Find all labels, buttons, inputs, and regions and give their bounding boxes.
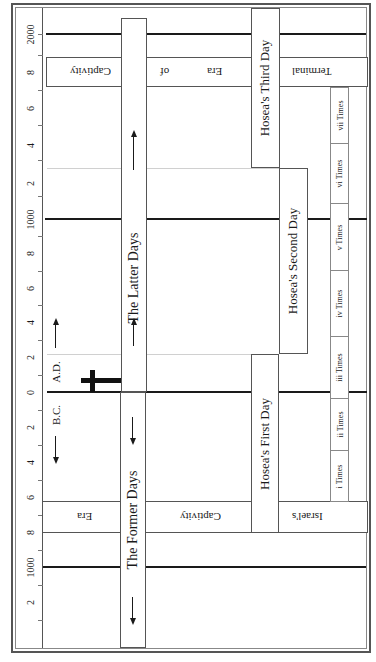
arrow-up-icon [53, 318, 59, 325]
arrow-shaft [132, 417, 133, 439]
tick-label: 4 [22, 447, 38, 477]
latter-days-column: The Latter Days [121, 164, 147, 392]
tick-label: 1000 [22, 552, 38, 582]
tick [38, 410, 43, 411]
arrow-down-icon [130, 618, 136, 625]
arrow-shaft [132, 597, 133, 619]
latter-days-column-upper [121, 18, 147, 164]
tick-label: 2 [22, 168, 38, 198]
times-cell-iv: iv Times [330, 270, 349, 337]
tick [38, 271, 43, 272]
former-days-column: The Former Days [120, 392, 146, 648]
arrow-down-icon [130, 438, 136, 445]
tick [38, 375, 43, 376]
band-word-israels: Israel's [282, 501, 332, 533]
times-cell-ii: ii Times [330, 398, 349, 451]
guide-line-200ad [47, 168, 305, 169]
tick-label: 8 [22, 57, 38, 87]
tick [38, 305, 43, 306]
tick [38, 550, 43, 551]
tick [38, 480, 43, 481]
tick-label: 0 [22, 377, 38, 407]
year-line-1000ad [45, 218, 367, 220]
band-word-captivity: Captivity [165, 501, 235, 533]
tick [38, 34, 43, 35]
tick [38, 445, 43, 446]
hosea-second-day: Hosea's Second Day [279, 168, 308, 354]
tick [38, 236, 43, 237]
arrow-shaft [133, 136, 134, 170]
tick-label: 6 [22, 93, 38, 123]
arrow-shaft [133, 324, 134, 346]
tick-label: 4 [22, 130, 38, 160]
tick-label: 2000 [22, 19, 38, 49]
tick-label: 2 [22, 412, 38, 442]
times-cell-vii: vii Times [330, 87, 349, 144]
year-line-0 [47, 391, 367, 393]
tick-label: 8 [22, 238, 38, 268]
arrow-shaft [55, 324, 56, 348]
guide-line-200ad-lower [47, 354, 252, 355]
band-word-terminal: Terminal [282, 57, 342, 87]
tick-label: 6 [22, 273, 38, 303]
band-word-era: Era [190, 57, 240, 87]
inner-frame [15, 7, 367, 649]
ad-label: A.D. [48, 355, 64, 389]
tick [38, 160, 43, 161]
tick [38, 55, 43, 56]
tick-label: 6 [22, 482, 38, 512]
tick [38, 340, 43, 341]
tick-label: 4 [22, 307, 38, 337]
tick [38, 620, 43, 621]
tick-label: 2 [22, 342, 38, 372]
bc-label: B.C. [48, 398, 64, 432]
year-line-1000bc [43, 566, 366, 568]
arrow-up-icon [131, 318, 137, 325]
year-line-2000 [46, 33, 366, 35]
tick-label: 1000 [22, 204, 38, 234]
times-cell-v: v Times [330, 203, 349, 271]
tick [38, 125, 43, 126]
hosea-first-day: Hosea's First Day [251, 354, 279, 533]
times-cell-vi: vi Times [330, 143, 349, 204]
band-word-era: Era [60, 501, 110, 533]
tick-label: 2 [22, 587, 38, 617]
timeline-axis [42, 8, 43, 648]
tick [38, 196, 43, 197]
tick [38, 90, 43, 91]
tick [38, 585, 43, 586]
band-word-of: of [145, 57, 185, 87]
arrow-down-icon [53, 457, 59, 464]
tick-label: 8 [22, 517, 38, 547]
arrow-shaft [55, 436, 56, 458]
times-cell-iii: iii Times [330, 336, 349, 399]
times-cell-i: i Times [330, 450, 349, 502]
cross-icon-bar [81, 378, 121, 383]
band-word-captivity: Captivity [60, 57, 120, 87]
hosea-third-day: Hosea's Third Day [251, 8, 280, 168]
arrow-up-icon [131, 130, 137, 137]
